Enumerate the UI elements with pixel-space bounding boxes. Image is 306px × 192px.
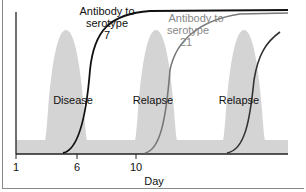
- chart-svg: Antibody to serotype 7 Antibody to serot…: [0, 0, 306, 192]
- x-axis-label: Day: [144, 175, 164, 187]
- tick-label-1: 1: [13, 161, 19, 173]
- tick-label-6: 6: [74, 161, 80, 173]
- ab21-label-3: 21: [180, 36, 192, 48]
- ab7-label-2: serotype: [86, 17, 128, 29]
- episode-label-relapse-1: Relapse: [133, 94, 173, 106]
- ab21-label-2: serotype: [167, 24, 209, 36]
- ab7-label-3: 7: [104, 29, 110, 41]
- ab21-label-1: Antibody to: [168, 12, 223, 24]
- episode-label-disease: Disease: [53, 94, 93, 106]
- episode-label-relapse-2: Relapse: [219, 94, 259, 106]
- ab7-label-1: Antibody to: [79, 5, 134, 17]
- episode-relapse-1: [130, 30, 182, 154]
- episode-disease: [40, 30, 92, 154]
- tick-label-10: 10: [130, 161, 142, 173]
